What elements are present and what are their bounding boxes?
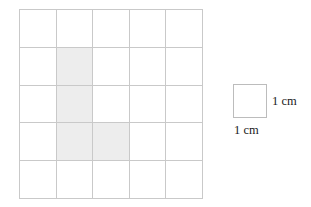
- reference-unit-square: [233, 84, 267, 118]
- grid-cell-r2c5[interactable]: [166, 47, 203, 85]
- grid-cell-r2c1[interactable]: [20, 47, 57, 85]
- unit-square-legend: 1 cm 1 cm: [233, 84, 305, 140]
- grid-cell-r4c4[interactable]: [129, 123, 166, 161]
- table-row: [20, 161, 203, 199]
- grid-cell-r5c5[interactable]: [166, 161, 203, 199]
- grid-cell-r2c4[interactable]: [129, 47, 166, 85]
- grid-cell-r5c2[interactable]: [56, 161, 93, 199]
- grid-figure: [19, 9, 203, 199]
- grid-cell-r1c4[interactable]: [129, 10, 166, 48]
- grid-cell-r2c2-shaded[interactable]: [56, 47, 93, 85]
- grid-cell-r3c1[interactable]: [20, 85, 57, 123]
- table-row: [20, 47, 203, 85]
- grid-cell-r1c3[interactable]: [93, 10, 130, 48]
- grid-cell-r4c2-shaded[interactable]: [56, 123, 93, 161]
- grid-cell-r4c3-shaded[interactable]: [93, 123, 130, 161]
- table-row: [20, 10, 203, 48]
- grid-cell-r1c5[interactable]: [166, 10, 203, 48]
- grid-cell-r5c3[interactable]: [93, 161, 130, 199]
- reference-square-width-label: 1 cm: [234, 123, 259, 137]
- grid-cell-r1c2[interactable]: [56, 10, 93, 48]
- grid-cell-r3c4[interactable]: [129, 85, 166, 123]
- unit-square-grid: [19, 9, 203, 199]
- table-row: [20, 123, 203, 161]
- grid-cell-r3c3[interactable]: [93, 85, 130, 123]
- grid-cell-r1c1[interactable]: [20, 10, 57, 48]
- grid-cell-r5c1[interactable]: [20, 161, 57, 199]
- grid-cell-r4c1[interactable]: [20, 123, 57, 161]
- grid-cell-r5c4[interactable]: [129, 161, 166, 199]
- grid-cell-r4c5[interactable]: [166, 123, 203, 161]
- grid-cell-r3c2-shaded[interactable]: [56, 85, 93, 123]
- grid-body: [20, 10, 203, 199]
- grid-cell-r2c3[interactable]: [93, 47, 130, 85]
- reference-square-height-label: 1 cm: [272, 94, 297, 108]
- table-row: [20, 85, 203, 123]
- grid-cell-r3c5[interactable]: [166, 85, 203, 123]
